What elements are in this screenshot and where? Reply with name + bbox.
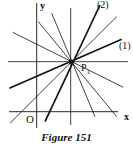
pencil-of-lines-diagram xyxy=(0,0,133,130)
pencil-line xyxy=(38,22,116,117)
point-subscript: 1 xyxy=(87,68,91,76)
pencil-lines xyxy=(8,5,128,125)
figure-caption: Figure 151 xyxy=(0,131,133,143)
point-p1-dot xyxy=(68,59,73,64)
y-axis-label: y xyxy=(40,1,45,11)
pencil-line xyxy=(10,17,117,124)
x-axis-label: x xyxy=(124,112,129,122)
line-1-label: (1) xyxy=(119,41,131,51)
line-2-label: (2) xyxy=(97,0,109,10)
origin-label: O xyxy=(26,114,34,125)
point-p1-label: P1 xyxy=(81,63,90,76)
